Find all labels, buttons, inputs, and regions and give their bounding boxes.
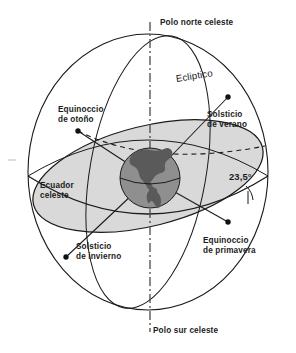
- marker-autumn-equinox: [75, 128, 80, 133]
- marker-summer-solstice: [225, 94, 230, 99]
- label-celestial-equator: Ecuador celeste: [40, 181, 102, 200]
- label-spring-equinox-line1: Equinoccio: [203, 236, 249, 245]
- label-spring-equinox: Equinoccio de primavera: [203, 236, 265, 255]
- label-spring-equinox-line2: de primavera: [203, 246, 256, 255]
- label-celestial-equator-line1: Ecuador: [40, 181, 74, 190]
- label-winter-solstice-line2: de invierno: [76, 252, 121, 261]
- label-autumn-equinox: Equinoccio de otoño: [58, 105, 120, 124]
- label-celestial-equator-line2: celeste: [40, 191, 69, 200]
- label-winter-solstice: Solsticio de invierno: [76, 242, 138, 261]
- earth-globe-group: [120, 148, 180, 208]
- label-winter-solstice-line1: Solsticio: [76, 242, 111, 251]
- label-north-celestial-pole: Polo norte celeste: [160, 18, 233, 28]
- label-autumn-equinox-line1: Equinoccio: [58, 105, 104, 114]
- label-summer-solstice: Solsticio de verano: [207, 110, 269, 129]
- label-summer-solstice-line2: de verano: [207, 120, 247, 129]
- marker-spring-equinox: [225, 219, 230, 224]
- marker-winter-solstice: [63, 254, 68, 259]
- celestial-sphere-diagram: Polo norte celeste Ecliptico Equinoccio …: [0, 0, 296, 353]
- label-south-celestial-pole: Polo sur celeste: [153, 326, 218, 336]
- label-summer-solstice-line1: Solsticio: [207, 110, 242, 119]
- label-obliquity-angle: 23,5°: [229, 172, 252, 182]
- label-autumn-equinox-line2: de otoño: [58, 115, 94, 124]
